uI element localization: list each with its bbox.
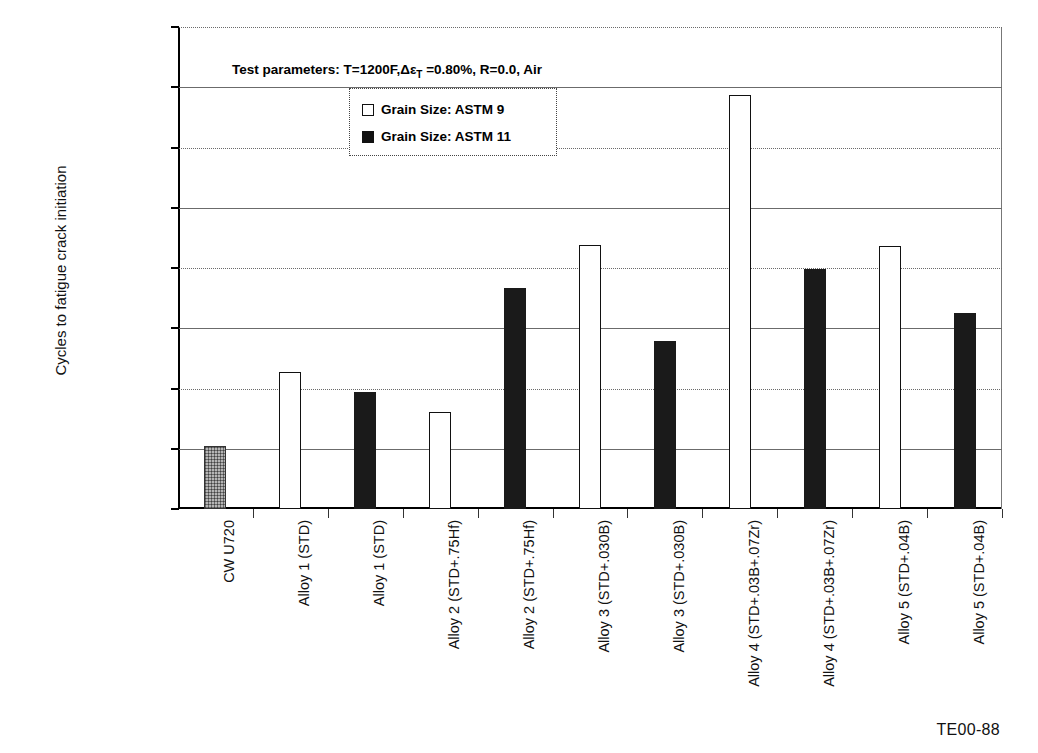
x-axis-tick-mark xyxy=(328,509,329,518)
test-parameters-annotation: Test parameters: T=1200F,ΔεT =0.80%, R=0… xyxy=(232,62,542,80)
y-axis-tick-mark xyxy=(171,267,179,269)
x-axis-tick-mark xyxy=(478,509,479,518)
test-parameters-prefix: Test parameters: T=1200F, xyxy=(232,62,400,77)
bar xyxy=(579,245,601,509)
x-axis-tick-mark xyxy=(553,509,554,518)
x-axis-tick-mark xyxy=(627,509,628,518)
bar xyxy=(204,446,226,509)
legend-item-astm-11: Grain Size: ASTM 11 xyxy=(362,123,556,150)
legend-item-astm-9: Grain Size: ASTM 9 xyxy=(362,96,556,123)
x-axis-category-label: Alloy 2 (STD+.75Hf) xyxy=(522,520,537,649)
fatigue-bar-chart: Cycles to fatigue crack initiation 8.00E… xyxy=(0,0,1038,753)
y-axis-tick-mark xyxy=(171,448,179,450)
y-axis-tick-mark xyxy=(171,26,179,28)
bar xyxy=(954,313,976,509)
gridline xyxy=(178,208,1002,209)
y-axis-tick-mark xyxy=(171,388,179,390)
x-axis-tick-mark xyxy=(927,509,928,518)
delta-epsilon-symbol: Δε xyxy=(400,62,416,77)
legend-label-astm-9: Grain Size: ASTM 9 xyxy=(381,102,504,117)
gridline xyxy=(178,148,1002,149)
x-axis-category-label: CW U720 xyxy=(222,520,237,583)
figure-code: TE00-88 xyxy=(937,721,1000,739)
x-axis-tick-mark xyxy=(1002,509,1003,518)
x-axis-tick-mark xyxy=(253,509,254,518)
plot-area: 8.00E+047.00E+046.00E+045.00E+044.00E+04… xyxy=(178,27,1002,509)
x-axis-category-label: Alloy 4 (STD+.03B+.07Zr) xyxy=(747,520,762,687)
bar xyxy=(729,95,751,509)
bar xyxy=(354,392,376,509)
x-axis-category-label: Alloy 3 (STD+.030B) xyxy=(672,520,687,653)
bar xyxy=(879,246,901,509)
bar xyxy=(654,341,676,509)
test-parameters-suffix: =0.80%, R=0.0, Air xyxy=(422,62,542,77)
y-axis-tick-mark xyxy=(171,147,179,149)
x-axis-category-label: Alloy 4 (STD+.03B+.07Zr) xyxy=(822,520,837,687)
bar xyxy=(429,412,451,509)
y-axis-tick-mark xyxy=(171,207,179,209)
legend-swatch-open-icon xyxy=(362,104,374,116)
bar xyxy=(504,288,526,509)
x-axis-category-label: Alloy 5 (STD+.04B) xyxy=(972,520,987,645)
x-axis-tick-mark xyxy=(852,509,853,518)
y-axis-tick-mark xyxy=(171,86,179,88)
x-axis-tick-mark xyxy=(777,509,778,518)
bar xyxy=(804,269,826,509)
x-axis-tick-mark xyxy=(403,509,404,518)
legend-swatch-filled-icon xyxy=(362,131,374,143)
gridline xyxy=(178,27,1002,28)
x-axis-category-label: Alloy 5 (STD+.04B) xyxy=(897,520,912,645)
x-axis-category-label: Alloy 3 (STD+.030B) xyxy=(597,520,612,653)
x-axis-category-label: Alloy 1 (STD) xyxy=(297,520,312,606)
legend-label-astm-11: Grain Size: ASTM 11 xyxy=(381,129,511,144)
x-axis-tick-mark xyxy=(702,509,703,518)
bar xyxy=(279,372,301,509)
legend: Grain Size: ASTM 9 Grain Size: ASTM 11 xyxy=(349,88,557,156)
y-axis-title: Cycles to fatigue crack initiation xyxy=(52,111,69,431)
y-axis-tick-mark xyxy=(171,508,179,510)
y-axis-tick-mark xyxy=(171,327,179,329)
gridline xyxy=(178,87,1002,88)
x-axis-category-label: Alloy 1 (STD) xyxy=(372,520,387,606)
x-axis-category-label: Alloy 2 (STD+.75Hf) xyxy=(447,520,462,649)
